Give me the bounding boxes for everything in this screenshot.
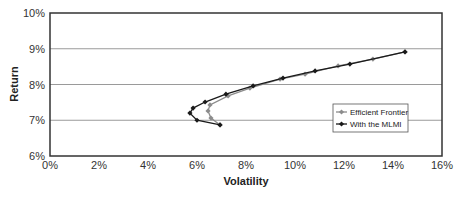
y-tick-label: 10% xyxy=(23,7,45,19)
x-tick-label: 10% xyxy=(284,159,306,171)
x-axis-ticks: 0%2%4%6%8%10%12%14%16% xyxy=(42,159,453,171)
y-tick-label: 9% xyxy=(29,43,45,55)
legend: Efficient FrontierWith the MLMI xyxy=(333,104,408,132)
x-tick-label: 12% xyxy=(333,159,355,171)
data-point-marker xyxy=(207,102,212,107)
data-point-marker xyxy=(402,49,407,54)
legend-label: Efficient Frontier xyxy=(350,108,408,117)
data-point-marker xyxy=(347,62,352,67)
frontier-chart: 6%7%8%9%10% 0%2%4%6%8%10%12%14%16% Retur… xyxy=(0,0,459,198)
y-tick-label: 7% xyxy=(29,114,45,126)
x-tick-label: 6% xyxy=(189,159,205,171)
x-tick-label: 14% xyxy=(382,159,404,171)
x-tick-label: 0% xyxy=(42,159,58,171)
data-point-marker xyxy=(205,108,210,113)
x-tick-label: 16% xyxy=(431,159,453,171)
data-point-marker xyxy=(202,99,207,104)
y-axis-ticks: 6%7%8%9%10% xyxy=(23,7,45,162)
x-tick-label: 4% xyxy=(140,159,156,171)
y-axis-title: Return xyxy=(8,66,20,102)
x-tick-label: 8% xyxy=(238,159,254,171)
x-axis-title: Volatility xyxy=(223,175,269,187)
legend-label: With the MLMI xyxy=(350,120,402,129)
y-tick-label: 8% xyxy=(29,79,45,91)
x-tick-label: 2% xyxy=(91,159,107,171)
